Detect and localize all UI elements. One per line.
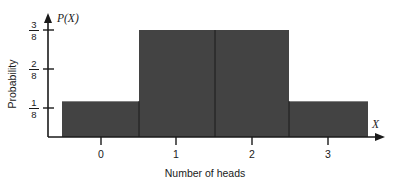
x-tick-label-0: 0 [98, 148, 104, 160]
x-tick-labels-group: 0 1 2 3 [98, 148, 331, 160]
x-axis-arrow-icon [375, 133, 385, 141]
x-tick-label-3: 3 [325, 148, 331, 160]
bar-category-2 [215, 30, 289, 137]
bar-category-0 [62, 101, 139, 137]
chart-canvas: 3 8 2 8 1 8 [0, 0, 397, 186]
y-axis-arrow-icon [44, 13, 52, 23]
bar-category-1 [139, 30, 215, 137]
y-axis-symbol-label: P(X) [56, 12, 79, 25]
y-axis-title: Probability [6, 59, 18, 109]
x-axis-symbol-label: X [371, 118, 380, 130]
probability-histogram-figure: 3 8 2 8 1 8 [0, 0, 397, 186]
y-tick-numerator-1: 1 [31, 97, 36, 108]
y-tick-label-2-8: 2 8 [29, 58, 39, 81]
y-tick-denominator-8b: 8 [31, 70, 36, 81]
x-tick-label-2: 2 [249, 148, 255, 160]
x-tick-label-1: 1 [173, 148, 179, 160]
y-tick-denominator-8c: 8 [31, 109, 36, 120]
x-axis-title: Number of heads [165, 167, 246, 179]
y-tick-label-1-8: 1 8 [29, 97, 39, 120]
y-tick-denominator-8a: 8 [31, 31, 36, 42]
y-tick-label-3-8: 3 8 [29, 19, 39, 42]
y-tick-numerator-3: 3 [31, 19, 36, 30]
y-axis-group [43, 13, 54, 137]
y-tick-labels-group: 3 8 2 8 1 8 [29, 19, 39, 120]
y-tick-numerator-2: 2 [31, 58, 36, 69]
bar-category-3 [289, 101, 368, 137]
